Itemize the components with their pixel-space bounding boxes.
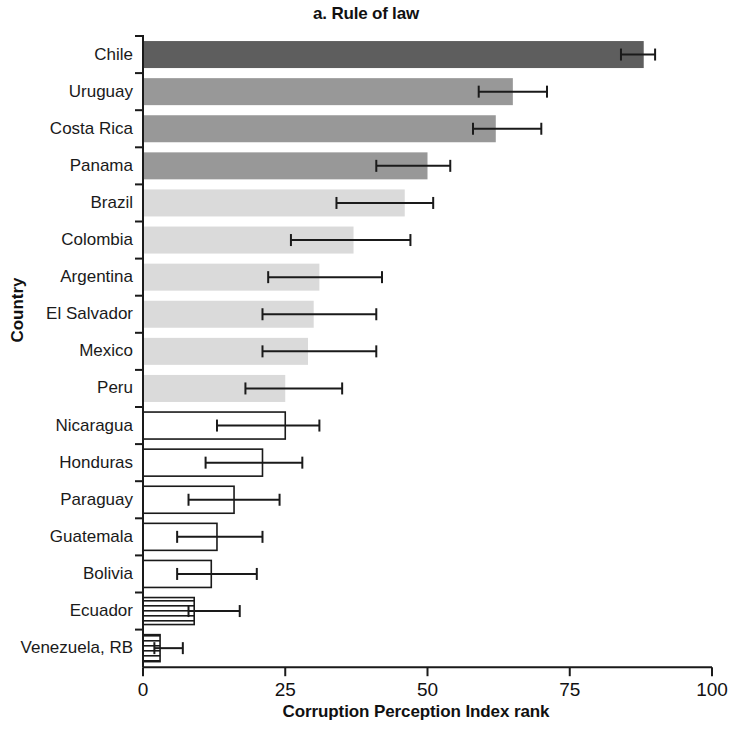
error-bar [189, 605, 240, 617]
plot-area [0, 0, 732, 729]
x-tick-label: 50 [388, 680, 468, 699]
bars-group [143, 41, 644, 662]
chart-figure: a. Rule of law Country ChileUruguayCosta… [0, 0, 732, 729]
bar [143, 41, 644, 68]
x-tick-label: 75 [530, 680, 610, 699]
bar [143, 115, 496, 142]
bar [143, 598, 194, 625]
x-tick-label: 100 [672, 680, 732, 699]
x-tick-label: 0 [103, 680, 183, 699]
x-axis-label: Corruption Perception Index rank [100, 702, 732, 722]
bar [143, 78, 513, 105]
x-tick-label: 25 [245, 680, 325, 699]
